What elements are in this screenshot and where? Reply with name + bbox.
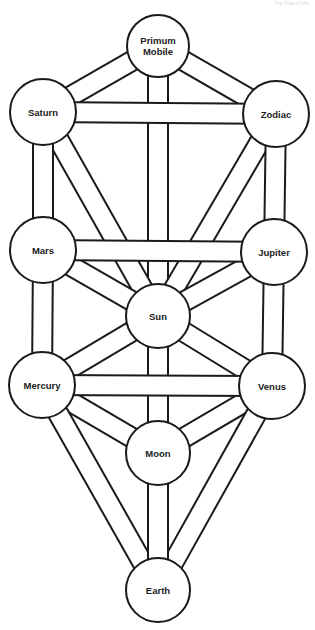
node-zodiac: Zodiac	[243, 81, 309, 147]
node-primum: PrimumMobile	[127, 15, 189, 77]
channel-mercury-venus	[42, 385, 272, 386]
channel-saturn-zodiac	[43, 112, 276, 114]
node-label: Jupiter	[258, 247, 290, 258]
node-mars: Mars	[10, 217, 76, 283]
node-label: Zodiac	[261, 109, 292, 120]
node-jupiter: Jupiter	[241, 219, 307, 285]
tree-of-life-diagram: PrimumMobileSaturnZodiacMarsJupiterSunMe…	[0, 0, 315, 630]
node-label: Mobile	[143, 46, 173, 57]
node-mercury: Mercury	[9, 352, 75, 418]
node-label: Primum	[140, 35, 175, 46]
node-saturn: Saturn	[10, 79, 76, 145]
node-label: Sun	[149, 311, 167, 322]
node-earth: Earth	[126, 558, 190, 622]
node-sun: Sun	[126, 284, 190, 348]
node-label: Saturn	[28, 107, 58, 118]
node-label: Mars	[32, 245, 54, 256]
channel-mars-jupiter	[43, 250, 274, 252]
node-venus: Venus	[239, 353, 305, 419]
node-label: Mercury	[24, 380, 62, 391]
node-label: Moon	[145, 448, 171, 459]
node-moon: Moon	[126, 421, 190, 485]
node-label: Venus	[258, 381, 286, 392]
node-label: Earth	[146, 585, 170, 596]
